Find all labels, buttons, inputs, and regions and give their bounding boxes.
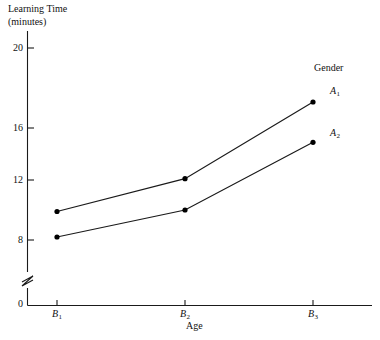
data-point-a1-b1 xyxy=(54,209,59,214)
series-label-a1: A1 xyxy=(330,85,340,96)
series-line-a2 xyxy=(57,142,313,237)
axis-break-icon xyxy=(22,276,33,286)
plot-area xyxy=(0,0,380,340)
x-tick-label-b3: B3 xyxy=(300,308,326,319)
series-label-a2: A2 xyxy=(330,127,340,138)
data-point-a2-b1 xyxy=(54,234,59,239)
legend-title: Gender xyxy=(314,62,343,73)
y-tick-label-16: 16 xyxy=(3,122,23,133)
y-tick-label-20: 20 xyxy=(3,42,23,53)
series-markers-a2 xyxy=(54,140,315,240)
y-tick-label-12: 12 xyxy=(3,174,23,185)
data-point-a2-b2 xyxy=(182,207,187,212)
y-tick-label-0: 0 xyxy=(3,298,23,309)
series-group xyxy=(54,99,315,239)
x-axis-title: Age xyxy=(186,320,203,333)
x-tick-label-b1-sub: 1 xyxy=(58,313,62,321)
data-point-a1-b2 xyxy=(182,176,187,181)
series-label-a1-sub: 1 xyxy=(336,90,340,98)
series-label-a2-sub: 2 xyxy=(336,132,340,140)
series-line-a1 xyxy=(57,102,313,212)
y-tick-label-8: 8 xyxy=(3,234,23,245)
series-markers-a1 xyxy=(54,99,315,214)
data-point-a1-b3 xyxy=(310,99,315,104)
x-tick-label-b3-sub: 3 xyxy=(314,313,318,321)
data-point-a2-b3 xyxy=(310,140,315,145)
chart-figure: Learning Time (minutes) 20 16 12 8 0 B1 … xyxy=(0,0,380,340)
x-tick-label-b2: B2 xyxy=(172,308,198,319)
x-tick-label-b1: B1 xyxy=(44,308,70,319)
